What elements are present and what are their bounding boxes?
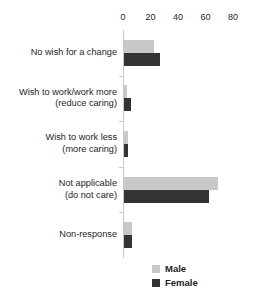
category-label-line: Non-response xyxy=(2,229,117,241)
x-tick-label-0: 0 xyxy=(120,11,125,24)
axis-tick-mark xyxy=(119,121,124,122)
x-tick-label-40: 40 xyxy=(173,11,183,24)
bar-female xyxy=(124,190,209,203)
bar-male xyxy=(124,177,218,190)
legend-label: Male xyxy=(165,262,186,276)
x-tick-label-60: 60 xyxy=(200,11,210,24)
category-label: Wish to work/work more(reduce caring) xyxy=(2,87,117,110)
bar-female xyxy=(124,235,132,248)
bar-group xyxy=(124,76,255,122)
legend-swatch-icon xyxy=(152,279,160,287)
category-label: No wish for a change xyxy=(2,47,117,59)
chart-legend: MaleFemale xyxy=(152,262,252,290)
bar-male xyxy=(124,40,154,53)
category-label: Wish to work less(more caring) xyxy=(2,132,117,155)
bar-female xyxy=(124,98,131,111)
category-label-line: (more caring) xyxy=(2,144,117,156)
plot-area: No wish for a changeWish to work/work mo… xyxy=(0,30,255,258)
category-row: Wish to work less(more caring) xyxy=(0,121,255,167)
bar-group xyxy=(124,212,255,258)
bar-male xyxy=(124,131,128,144)
category-row: Non-response xyxy=(0,212,255,258)
axis-tick-mark xyxy=(119,167,124,168)
bar-female xyxy=(124,53,160,66)
category-label-line: Not applicable xyxy=(2,178,117,190)
bar-group xyxy=(124,30,255,76)
axis-tick-mark xyxy=(119,76,124,77)
legend-item-female[interactable]: Female xyxy=(152,276,252,290)
bar-chart: 020406080 No wish for a changeWish to wo… xyxy=(0,0,255,295)
x-axis-tick-labels: 020406080 xyxy=(0,11,255,24)
x-tick-label-80: 80 xyxy=(228,11,238,24)
category-label-line: (do not care) xyxy=(2,190,117,202)
bar-group xyxy=(124,167,255,213)
legend-label: Female xyxy=(165,276,198,290)
legend-item-male[interactable]: Male xyxy=(152,262,252,276)
category-label-line: Wish to work/work more xyxy=(2,87,117,99)
bar-male xyxy=(124,222,132,235)
bar-female xyxy=(124,144,128,157)
category-label-line: (reduce caring) xyxy=(2,98,117,110)
category-label-line: No wish for a change xyxy=(2,47,117,59)
category-label-line: Wish to work less xyxy=(2,132,117,144)
category-row: No wish for a change xyxy=(0,30,255,76)
legend-swatch-icon xyxy=(152,265,160,273)
category-label: Non-response xyxy=(2,229,117,241)
bar-male xyxy=(124,85,127,98)
category-label: Not applicable(do not care) xyxy=(2,178,117,201)
bar-group xyxy=(124,121,255,167)
axis-tick-mark xyxy=(119,212,124,213)
category-row: Wish to work/work more(reduce caring) xyxy=(0,76,255,122)
x-tick-label-20: 20 xyxy=(145,11,155,24)
category-row: Not applicable(do not care) xyxy=(0,167,255,213)
